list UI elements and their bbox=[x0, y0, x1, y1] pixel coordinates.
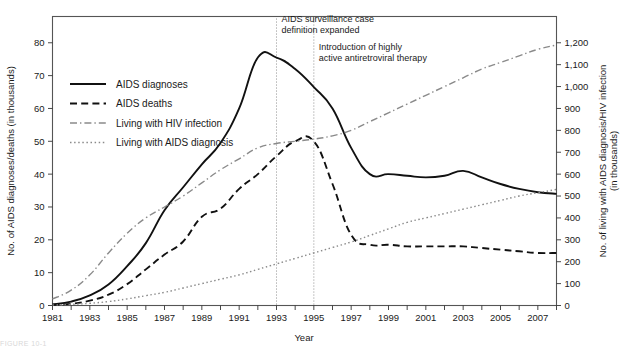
x-tick-label: 1985 bbox=[117, 312, 138, 323]
y-left-tick-label: 40 bbox=[34, 169, 45, 180]
y-left-tick-label: 80 bbox=[34, 37, 45, 48]
y-left-tick-label: 60 bbox=[34, 103, 45, 114]
y-right-tick-label: 400 bbox=[565, 212, 581, 223]
y-right-tick-label: 0 bbox=[565, 300, 570, 311]
y-right-tick-label: 100 bbox=[565, 278, 581, 289]
y-right-axis-title: No. of living with AIDS diagnosis/HIV in… bbox=[597, 65, 608, 258]
x-tick-label: 1981 bbox=[42, 312, 63, 323]
y-left-tick-label: 50 bbox=[34, 136, 45, 147]
aids-surveillance-line-chart: 1981198319851987198919911993199519971999… bbox=[0, 0, 626, 354]
y-right-tick-label: 500 bbox=[565, 190, 581, 201]
y-left-axis-title: No. of AIDS diagnoses/deaths (in thousan… bbox=[5, 66, 16, 256]
y-left-tick-label: 0 bbox=[39, 300, 44, 311]
y-right-tick-label: 200 bbox=[565, 256, 581, 267]
figure-caption-partial: FIGURE 10-1 bbox=[0, 340, 200, 354]
annotation-text: AIDS surveillance case bbox=[282, 14, 375, 24]
legend-label-0: AIDS diagnoses bbox=[116, 79, 188, 90]
y-right-tick-label: 800 bbox=[565, 125, 581, 136]
legend-label-2: Living with HIV infection bbox=[116, 118, 222, 129]
x-axis-title: Year bbox=[294, 332, 313, 343]
chart-background bbox=[0, 0, 626, 354]
y-right-axis-title-line2: (in thousands) bbox=[608, 131, 619, 191]
y-right-tick-label: 300 bbox=[565, 234, 581, 245]
y-right-tick-label: 1,200 bbox=[565, 37, 589, 48]
annotation-text: active antiretroviral therapy bbox=[319, 53, 428, 63]
x-tick-label: 2003 bbox=[453, 312, 474, 323]
y-right-tick-label: 1,000 bbox=[565, 81, 589, 92]
x-tick-label: 2005 bbox=[490, 312, 511, 323]
y-right-tick-label: 700 bbox=[565, 147, 581, 158]
y-left-tick-label: 70 bbox=[34, 70, 45, 81]
x-tick-label: 2007 bbox=[527, 312, 548, 323]
y-right-tick-label: 600 bbox=[565, 169, 581, 180]
annotation-text: definition expanded bbox=[282, 25, 360, 35]
x-tick-label: 1995 bbox=[303, 312, 324, 323]
y-left-tick-label: 10 bbox=[34, 267, 45, 278]
x-tick-label: 1997 bbox=[341, 312, 362, 323]
x-tick-label: 1987 bbox=[154, 312, 175, 323]
x-tick-label: 1993 bbox=[266, 312, 287, 323]
y-left-tick-label: 30 bbox=[34, 201, 45, 212]
x-tick-label: 1983 bbox=[79, 312, 100, 323]
y-left-tick-label: 20 bbox=[34, 234, 45, 245]
annotation-text: Introduction of highly bbox=[319, 42, 403, 52]
x-tick-label: 1991 bbox=[229, 312, 250, 323]
legend-label-1: AIDS deaths bbox=[116, 98, 172, 109]
y-right-tick-label: 900 bbox=[565, 103, 581, 114]
x-tick-label: 2001 bbox=[415, 312, 436, 323]
x-tick-label: 1989 bbox=[191, 312, 212, 323]
legend-label-3: Living with AIDS diagnosis bbox=[116, 137, 233, 148]
x-tick-label: 1999 bbox=[378, 312, 399, 323]
figure-container: 1981198319851987198919911993199519971999… bbox=[0, 0, 626, 354]
y-left-axis-tick-labels: 01020304050607080 bbox=[34, 37, 45, 311]
y-right-tick-label: 1,100 bbox=[565, 59, 589, 70]
